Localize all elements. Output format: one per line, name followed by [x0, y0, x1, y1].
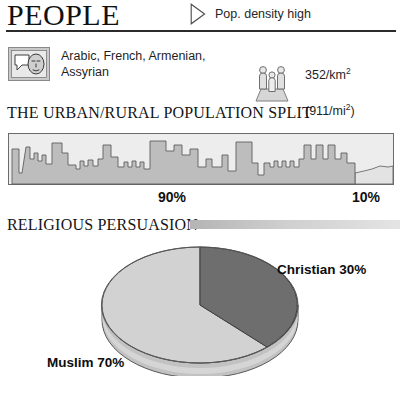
density-flag: Pop. density high	[190, 3, 311, 25]
urban-percent-label: 90%	[158, 189, 186, 205]
three-people-icon	[250, 63, 294, 103]
density-imperial-close: )	[351, 104, 355, 118]
urban-rural-heading: THE URBAN/RURAL POPULATION SPLIT	[7, 104, 312, 122]
rural-percent-label: 10%	[352, 189, 380, 205]
fact-languages: Arabic, French, Armenian, Assyrian	[8, 47, 206, 81]
density-metric-exponent: 2	[346, 66, 351, 76]
triangle-right-icon	[190, 3, 206, 25]
pie-label-muslim: Muslim 70%	[47, 355, 124, 370]
speech-bubble-face-icon	[8, 47, 50, 81]
languages-value: Arabic, French, Armenian, Assyrian	[61, 48, 206, 80]
religion-pie-chart	[100, 244, 300, 376]
page-title: PEOPLE	[7, 0, 120, 32]
religion-heading: RELIGIOUS PERSUASION	[7, 216, 198, 234]
pie-label-christian: Christian 30%	[277, 262, 366, 277]
density-flag-label: Pop. density high	[215, 7, 311, 21]
urban-rural-chart	[8, 133, 394, 185]
page-header: PEOPLE Pop. density high	[0, 0, 402, 36]
header-divider	[6, 30, 396, 32]
density-metric: 352/km	[305, 68, 346, 82]
facts-row: Arabic, French, Armenian, Assyrian 352/k…	[0, 45, 402, 95]
density-value: 352/km2 (911/mi2)	[305, 47, 355, 119]
religion-gradient-rule	[190, 220, 400, 229]
